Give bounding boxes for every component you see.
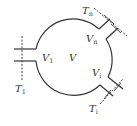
label-v-1: V1 <box>42 52 53 65</box>
control-volume-diagram: Tn Vn V1 V Vi T1 Ti <box>0 0 137 126</box>
port-1 <box>14 36 36 80</box>
section-line-ti <box>100 79 123 104</box>
label-v-n: Vn <box>86 33 97 46</box>
label-t-i: Ti <box>89 103 98 116</box>
label-v-i: Vi <box>92 67 101 80</box>
label-v: V <box>69 52 78 63</box>
label-t-1: T1 <box>15 83 26 96</box>
label-t-n: Tn <box>82 5 93 18</box>
port-n <box>94 8 127 39</box>
port-i <box>100 77 123 104</box>
section-line-tn <box>94 8 127 36</box>
